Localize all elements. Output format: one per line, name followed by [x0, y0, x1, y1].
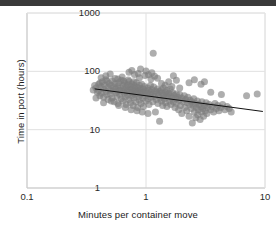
- data-point: [130, 78, 137, 85]
- data-point: [145, 110, 152, 117]
- data-point: [243, 92, 250, 99]
- y-tick-label: 1000: [56, 7, 100, 18]
- x-tick-label: 10: [245, 191, 276, 202]
- data-point: [207, 89, 214, 96]
- data-point: [128, 106, 135, 113]
- data-point: [139, 109, 146, 116]
- y-tick-label: 100: [56, 65, 100, 76]
- data-point: [137, 65, 144, 72]
- data-point: [92, 94, 99, 101]
- data-point: [173, 77, 180, 84]
- data-point: [191, 76, 198, 83]
- data-point: [218, 91, 225, 98]
- data-point: [168, 83, 175, 90]
- y-tick-label: 10: [56, 124, 100, 135]
- x-tick-label: 1: [126, 191, 166, 202]
- data-point: [254, 90, 261, 97]
- y-tick-label: 1: [56, 182, 100, 193]
- data-point: [108, 98, 115, 105]
- data-point: [156, 118, 163, 125]
- chart-figure: 1101001000 0.1110 Time in port (hours) M…: [0, 0, 276, 227]
- data-point: [120, 78, 127, 85]
- data-point: [107, 71, 114, 78]
- x-tick-label: 0.1: [7, 191, 47, 202]
- data-point: [152, 109, 159, 116]
- data-point: [228, 109, 235, 116]
- data-point: [201, 78, 208, 85]
- x-axis-title: Minutes per container move: [0, 209, 276, 220]
- data-point: [100, 99, 107, 106]
- data-point: [150, 50, 157, 57]
- y-axis-title: Time in port (hours): [15, 37, 26, 167]
- data-points-group: [90, 50, 261, 127]
- data-point: [115, 102, 122, 109]
- data-point: [176, 84, 183, 91]
